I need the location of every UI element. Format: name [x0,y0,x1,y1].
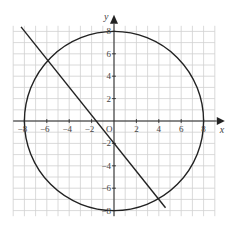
y-tick-label: 4 [107,71,112,81]
x-tick-label: 8 [201,124,206,134]
x-tick-label: −2 [85,124,95,134]
x-tick-label: −6 [40,124,50,134]
origin-label: O [106,124,113,134]
x-tick-label: 6 [179,124,184,134]
y-axis-label: y [103,11,109,22]
tick-labels: −8−6−4−224688642−2−4−6−8Oxy [18,11,225,216]
curves [21,27,204,211]
y-tick-label: −4 [101,161,111,171]
x-axis-label: x [219,124,225,135]
y-tick-label: −6 [101,183,111,193]
x-tick-label: −4 [62,124,72,134]
chart-plot: −8−6−4−224688642−2−4−6−8Oxy [0,0,236,235]
y-tick-label: −8 [101,206,111,216]
x-tick-label: 4 [157,124,162,134]
axes [13,15,225,216]
y-tick-label: 8 [107,26,112,36]
y-tick-label: 2 [107,94,112,104]
y-tick-label: 6 [107,49,112,59]
y-axis-arrow-icon [110,15,118,24]
x-tick-label: 2 [134,124,139,134]
x-tick-label: −8 [18,124,28,134]
y-tick-label: −2 [101,138,111,148]
